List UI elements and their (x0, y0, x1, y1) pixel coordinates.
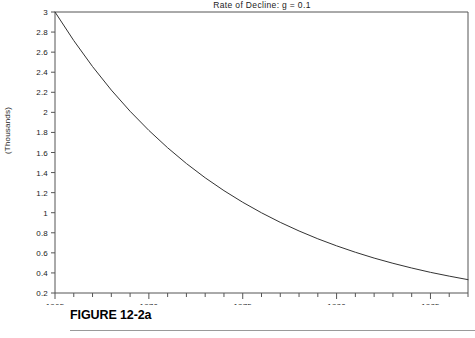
data-series-group (55, 12, 468, 280)
y-tick-label: 0.4 (36, 269, 48, 278)
figure-caption: FIGURE 12-2a (70, 308, 151, 322)
y-tick-label: 3 (43, 8, 48, 17)
series-line (55, 12, 468, 280)
y-tick-label: 0.2 (36, 289, 48, 298)
y-tick-label: 2 (43, 108, 48, 117)
y-tick-label: 1.8 (36, 128, 48, 137)
y-tick-label: 2.8 (36, 28, 48, 37)
caption-divider (70, 330, 475, 331)
y-tick-label: 1 (43, 209, 48, 218)
y-tick-label: 2.2 (36, 88, 48, 97)
plot-area: 0.20.40.60.811.21.41.61.822.22.42.62.83 … (0, 0, 475, 305)
figure-page: Rate of Decline: g = 0.1 (Thousands) 0.2… (0, 0, 475, 338)
y-tick-label: 1.2 (36, 189, 48, 198)
y-tick-label: 1.6 (36, 149, 48, 158)
y-tick-label: 0.8 (36, 229, 48, 238)
y-tick-label: 0.6 (36, 249, 48, 258)
y-axis-ticks: 0.20.40.60.811.21.41.61.822.22.42.62.83 (36, 8, 55, 298)
y-tick-label: 2.6 (36, 48, 48, 57)
axis-frame (55, 12, 468, 293)
chart-figure: Rate of Decline: g = 0.1 (Thousands) 0.2… (0, 0, 475, 305)
caption-block: FIGURE 12-2a (0, 305, 475, 338)
x-axis-ticks: 19651970197519801985 (46, 293, 468, 305)
y-tick-label: 2.4 (36, 68, 48, 77)
y-tick-label: 1.4 (36, 169, 48, 178)
